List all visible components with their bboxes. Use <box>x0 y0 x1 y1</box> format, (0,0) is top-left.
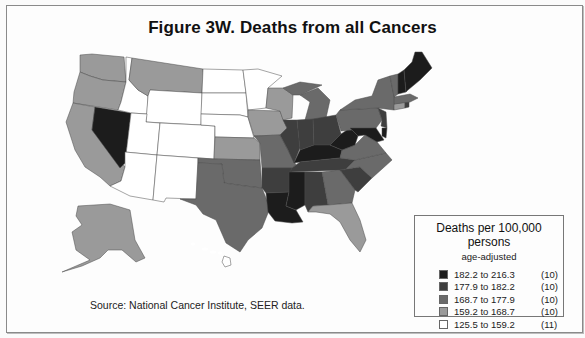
source-note: Source: National Cancer Institute, SEER … <box>90 299 305 311</box>
state-pa <box>336 108 382 131</box>
state-ma <box>394 94 418 104</box>
legend-range: 125.5 to 159.2 <box>454 319 541 330</box>
legend-count: (10) <box>541 294 558 305</box>
state-de <box>382 128 387 138</box>
legend-subtitle: age-adjusted <box>415 251 563 262</box>
state-nm <box>153 155 198 202</box>
legend-swatch <box>439 282 448 291</box>
legend-row: 125.5 to 159.2 (11) <box>439 318 563 331</box>
legend-count: (10) <box>541 306 558 317</box>
legend-count: (10) <box>541 281 558 292</box>
state-ms <box>286 172 305 210</box>
legend-row: 177.9 to 182.2 (10) <box>439 281 563 294</box>
state-hi <box>191 243 231 268</box>
state-me <box>404 52 432 92</box>
legend-row: 159.2 to 168.7 (10) <box>439 306 563 319</box>
state-nd <box>202 69 246 93</box>
legend-range: 177.9 to 182.2 <box>454 281 541 292</box>
legend: Deaths per 100,000 persons age-adjusted … <box>414 215 564 317</box>
legend-row: 182.2 to 216.3 (10) <box>439 268 563 281</box>
state-mt <box>129 58 203 96</box>
state-ks <box>214 137 260 160</box>
legend-swatch <box>439 270 448 279</box>
state-ny <box>340 76 395 110</box>
state-ri <box>405 102 409 108</box>
legend-range: 159.2 to 168.7 <box>454 306 541 317</box>
legend-swatch <box>439 307 448 316</box>
state-wy <box>146 90 202 125</box>
state-co <box>157 123 215 159</box>
legend-row: 168.7 to 177.9 (10) <box>439 293 563 306</box>
legend-range: 168.7 to 177.9 <box>454 294 541 305</box>
legend-count: (10) <box>541 269 558 280</box>
state-ar <box>262 168 292 193</box>
legend-swatch <box>439 295 448 304</box>
state-sd <box>201 93 248 117</box>
state-in <box>297 119 314 150</box>
state-fl <box>308 203 366 252</box>
legend-swatch <box>439 320 448 329</box>
legend-rows: 182.2 to 216.3 (10) 177.9 to 182.2 (10) … <box>439 268 563 331</box>
state-ak <box>62 204 145 272</box>
legend-count: (11) <box>541 319 557 330</box>
legend-title: Deaths per 100,000 persons <box>415 221 563 249</box>
legend-range: 182.2 to 216.3 <box>454 269 541 280</box>
